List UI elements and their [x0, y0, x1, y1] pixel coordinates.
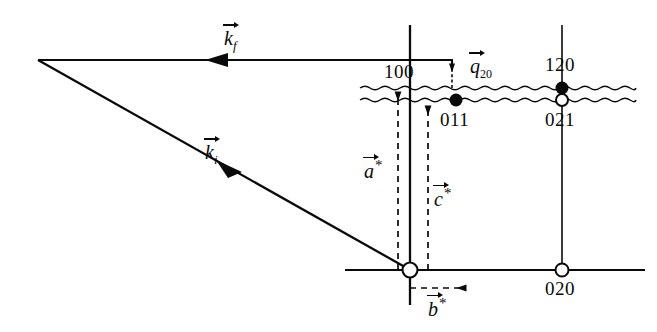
reflection-label-100: 100 [384, 62, 414, 81]
k-initial-glyph: k [205, 140, 214, 162]
k-initial-arrowhead [216, 160, 242, 178]
reflection-label-120: 120 [545, 55, 575, 74]
reflection-label-011: 011 [440, 110, 469, 129]
a-star-label: a* [364, 158, 383, 181]
k-initial-vector [38, 60, 412, 271]
reflection-label-020: 020 [545, 279, 575, 298]
k-initial-subscript: i [214, 152, 218, 167]
reflection-marker-origin [403, 263, 418, 278]
reflection-marker-020 [556, 264, 569, 277]
reflection-marker-120 [556, 82, 569, 95]
k-initial-label: ki [205, 140, 218, 166]
reflection-marker-021 [556, 94, 568, 106]
scattering-diagram-figure: 100 011 120 021 020 kf ki q20 a* c* b* [0, 0, 657, 332]
diffuse-line-lower [360, 98, 636, 101]
c-star-label: c* [434, 186, 451, 209]
q-scattering-glyph: q [470, 54, 480, 76]
b-star-glyph: b [428, 297, 438, 319]
reflection-label-021: 021 [545, 110, 575, 129]
k-final-label: kf [224, 26, 237, 52]
k-final-subscript: f [233, 38, 237, 53]
reflection-marker-011 [450, 94, 463, 107]
c-star-glyph: c [434, 187, 443, 209]
k-final-glyph: k [224, 26, 233, 48]
b-star-label: b* [428, 296, 447, 319]
q-scattering-subscript: 20 [480, 67, 492, 81]
q-scattering-label: q20 [470, 54, 492, 80]
k-final-arrowhead [205, 53, 228, 67]
diffuse-line-upper [360, 86, 636, 89]
a-star-glyph: a [364, 159, 374, 181]
